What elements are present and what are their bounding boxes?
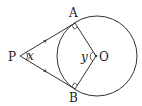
label-b: B <box>69 91 78 105</box>
center-dot-o <box>95 55 97 57</box>
label-y: y <box>80 50 88 64</box>
label-o: O <box>99 50 109 64</box>
label-p: P <box>8 50 16 64</box>
label-x: x <box>27 49 34 63</box>
label-a: A <box>68 6 78 20</box>
angle-arc-o <box>90 52 93 61</box>
diagram-canvas: P x A B y O <box>0 0 142 106</box>
